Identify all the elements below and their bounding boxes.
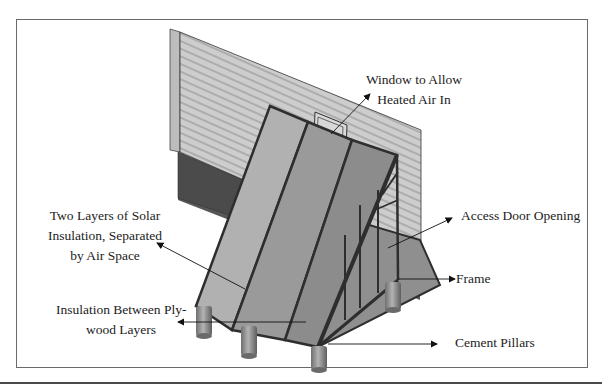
- label-solar-insulation: Two Layers of Solar Insulation, Separate…: [40, 206, 170, 266]
- bottom-rule: [0, 382, 602, 384]
- label-cement-pillars: Cement Pillars: [455, 333, 535, 353]
- label-solar-insulation-line3: by Air Space: [40, 246, 170, 266]
- label-cement-pillars-text: Cement Pillars: [455, 335, 535, 350]
- label-frame-text: Frame: [456, 271, 491, 286]
- label-plywood-insulation: Insulation Between Ply- wood Layers: [56, 300, 186, 340]
- label-plywood-insulation-line1: Insulation Between Ply-: [56, 300, 186, 320]
- label-window-line2: Heated Air In: [364, 90, 464, 110]
- label-access-door: Access Door Opening: [461, 206, 580, 226]
- label-window: Window to Allow Heated Air In: [364, 70, 464, 110]
- label-solar-insulation-line1: Two Layers of Solar: [40, 206, 170, 226]
- label-solar-insulation-line2: Insulation, Separated: [40, 226, 170, 246]
- label-plywood-insulation-line2: wood Layers: [56, 320, 186, 340]
- label-frame: Frame: [456, 269, 491, 289]
- label-window-line1: Window to Allow: [364, 70, 464, 90]
- label-access-door-text: Access Door Opening: [461, 208, 580, 223]
